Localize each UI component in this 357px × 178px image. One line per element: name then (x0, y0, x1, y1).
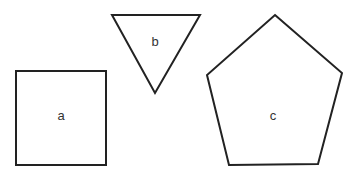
triangle-outline (112, 15, 200, 93)
square-label: a (57, 108, 65, 123)
shape-square: a (16, 71, 106, 165)
shapes-diagram: a b c (0, 0, 357, 178)
pentagon-label: c (270, 108, 277, 123)
pentagon-outline (207, 15, 342, 165)
shape-triangle: b (112, 15, 200, 93)
triangle-label: b (151, 34, 158, 49)
shape-pentagon: c (207, 15, 342, 165)
